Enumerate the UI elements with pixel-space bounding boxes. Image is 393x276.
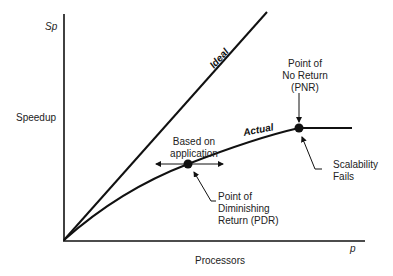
scalability-label-line: Fails bbox=[333, 171, 378, 183]
pdr-label-line: Return (PDR) bbox=[218, 215, 279, 227]
pnr-label: Point of No Return (PNR) bbox=[275, 58, 335, 94]
y-axis-label: Speedup bbox=[16, 112, 56, 124]
pnr-label-line: Point of bbox=[275, 58, 335, 70]
y-axis-symbol: Sp bbox=[45, 21, 57, 33]
pdr-label-line: Point of bbox=[218, 191, 279, 203]
pdr-leader-line bbox=[194, 172, 216, 201]
x-axis-label: Processors bbox=[195, 255, 245, 267]
scalability-label-line: Scalability bbox=[333, 159, 378, 171]
x-axis-symbol: p bbox=[350, 243, 356, 255]
scalability-leader-line bbox=[302, 137, 322, 169]
based-on-label-line: application bbox=[164, 148, 224, 160]
pdr-label-line: Diminishing bbox=[218, 203, 279, 215]
based-on-label: Based on application bbox=[164, 136, 224, 160]
based-on-label-line: Based on bbox=[164, 136, 224, 148]
pnr-point bbox=[295, 124, 304, 133]
pnr-label-line: (PNR) bbox=[275, 82, 335, 94]
pdr-label: Point of Diminishing Return (PDR) bbox=[218, 191, 279, 227]
pnr-label-line: No Return bbox=[275, 70, 335, 82]
scalability-label: Scalability Fails bbox=[333, 159, 378, 183]
